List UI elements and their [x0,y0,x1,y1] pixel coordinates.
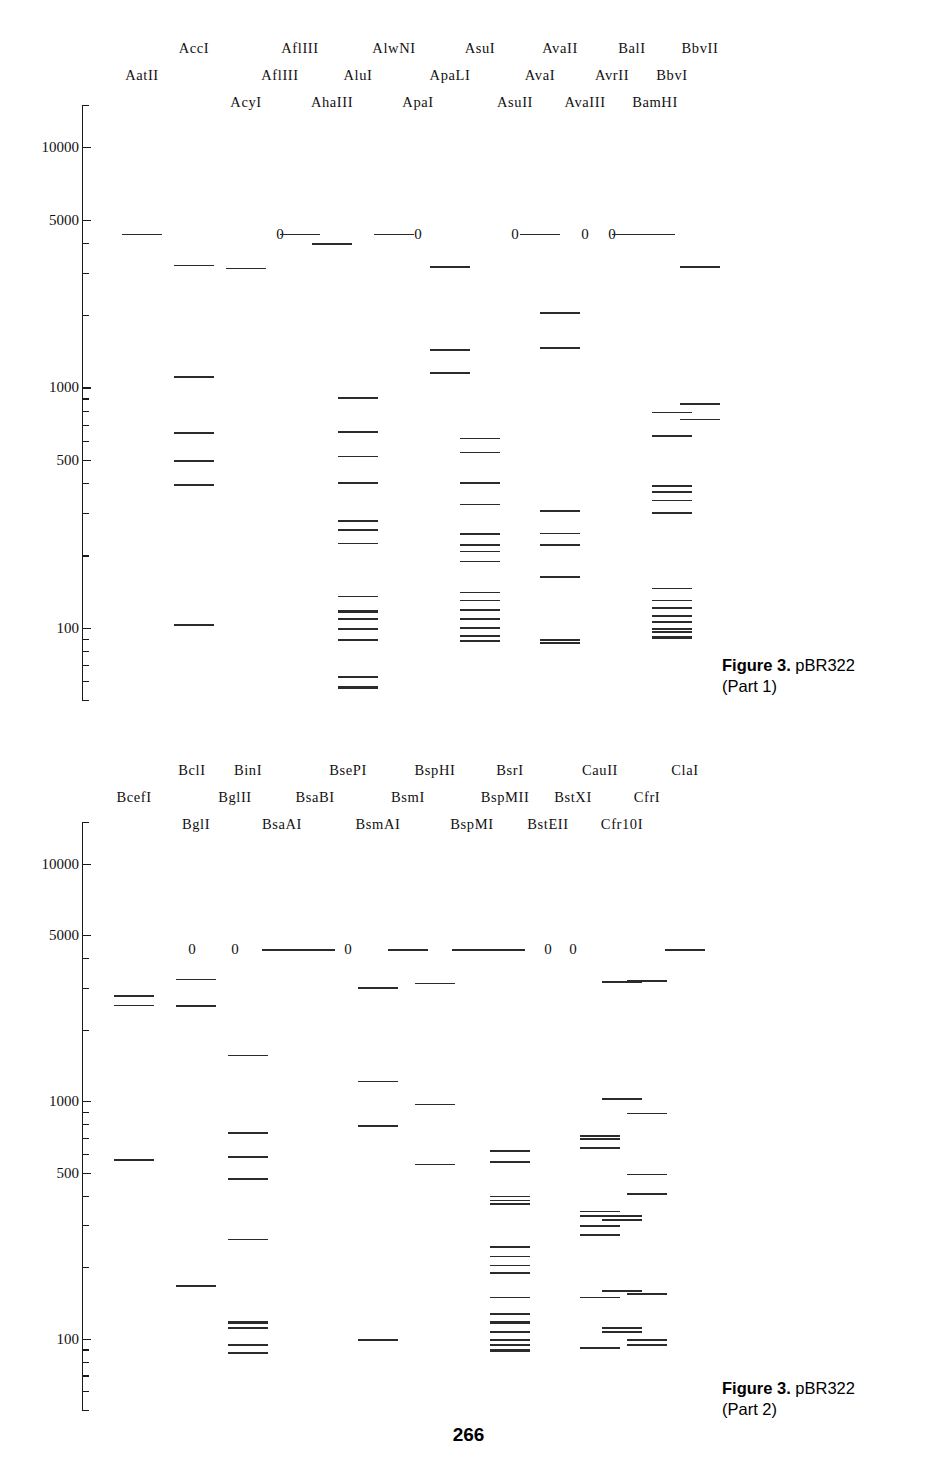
band [460,561,500,563]
band [580,1347,620,1349]
enzyme-label-bstxi: BstXI [554,789,592,806]
enzyme-label-bsepi: BsePI [329,762,367,779]
zero-cut-marker-apai: 0 [414,225,422,242]
band [338,610,378,612]
band [176,979,216,981]
band [228,1055,268,1057]
enzyme-label-acci: AccI [179,40,210,57]
band [226,268,266,270]
y-axis-tick-800 [82,411,89,412]
y-axis-tick-90 [82,1349,89,1350]
enzyme-label-bini: BinI [234,762,262,779]
band [174,265,214,267]
y-axis-label-10000: 10000 [42,139,83,156]
y-axis-tick-50 [82,1410,89,1411]
y-axis-tick-90 [82,639,89,640]
band [652,491,692,493]
y-axis-tick-400 [82,483,89,484]
enzyme-label-bgli: BglI [182,816,210,833]
y-axis-tick-50 [82,700,89,701]
enzyme-label-asuii: AsuII [497,94,533,111]
band [680,419,720,421]
y-axis-tick-1000 [82,387,91,388]
band [635,234,675,236]
enzyme-label-cauii: CauII [582,762,618,779]
figure-caption-part: (Part 2) [722,1399,855,1420]
band [460,551,500,553]
band [580,1211,620,1213]
band [485,949,525,951]
zero-cut-marker-bglii: 0 [231,941,239,958]
band [228,1352,268,1354]
enzyme-label-bsteii: BstEII [527,816,568,833]
band [652,607,692,609]
figure-caption-label: Figure 3. [722,1379,791,1397]
band [460,600,500,602]
y-axis-tick-600 [82,1154,89,1155]
y-axis-tick-900 [82,398,89,399]
band [490,1339,530,1341]
band [280,234,320,236]
band [490,1349,530,1351]
y-axis-line-part2 [82,822,83,1410]
band [490,1256,530,1258]
band [460,640,500,642]
band [540,642,580,644]
band [338,596,378,598]
enzyme-label-bamhi: BamHI [632,94,678,111]
band [490,1200,530,1202]
band [338,676,378,678]
y-axis-tick-5000 [82,220,91,221]
band [338,456,378,458]
band [295,949,335,951]
band [174,460,214,462]
zero-cut-marker-bsteii: 0 [544,941,552,958]
band [680,403,720,405]
band [652,500,692,502]
band [540,544,580,546]
enzyme-label-clai: ClaI [671,762,698,779]
band [312,243,352,245]
zero-cut-marker-asuii: 0 [511,225,519,242]
band [627,1293,667,1295]
band [338,397,378,399]
band [460,635,500,637]
band [580,1138,620,1140]
y-axis-tick-15000 [82,822,89,823]
band [490,1297,530,1299]
enzyme-label-bsphi: BspHI [415,762,456,779]
y-axis-tick-15000 [82,105,89,106]
band [680,266,720,268]
enzyme-label-alui: AluI [344,67,373,84]
band [460,438,500,440]
band [627,980,667,982]
band [430,266,470,268]
band [114,995,154,997]
y-axis-tick-2000 [82,315,89,316]
band [338,618,378,620]
y-axis-label-1000: 1000 [49,1093,82,1110]
y-axis-tick-500 [82,460,91,461]
y-axis-tick-800 [82,1124,89,1125]
y-axis-tick-60 [82,1391,89,1392]
enzyme-label-bbvii: BbvII [682,40,719,57]
enzyme-label-bglii: BglII [218,789,252,806]
band [490,1265,530,1267]
band [122,234,162,236]
y-axis-tick-700 [82,1138,89,1139]
band [602,1098,642,1100]
band [652,615,692,617]
y-axis-tick-3000 [82,988,89,989]
y-axis-tick-700 [82,425,89,426]
band [580,1297,620,1299]
band [490,1321,530,1323]
y-axis-label-5000: 5000 [49,927,82,944]
enzyme-label-bcli: BclI [178,762,205,779]
zero-cut-marker-avaiii: 0 [581,225,589,242]
band [460,533,500,535]
band [652,412,692,414]
band [490,1313,530,1315]
figure-page: AatIIAccIAcyIAflIIIAflIIIAhaIIIAluIAlwNI… [0,0,937,1469]
y-axis-tick-80 [82,651,89,652]
band [580,1135,620,1137]
